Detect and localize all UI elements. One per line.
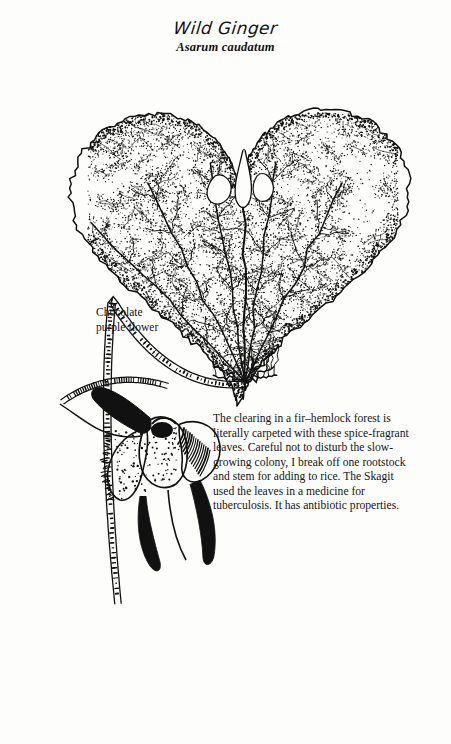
annotation-label: Chocolate purple flower: [96, 305, 158, 334]
description-text: The clearing in a fir–hemlock forest is …: [213, 412, 409, 514]
leaf: [68, 108, 411, 406]
flower: [60, 377, 220, 571]
wild-ginger-illustration: [0, 0, 451, 744]
botanical-plate: Wild Ginger Asarum caudatum Chocolate pu…: [0, 0, 451, 744]
